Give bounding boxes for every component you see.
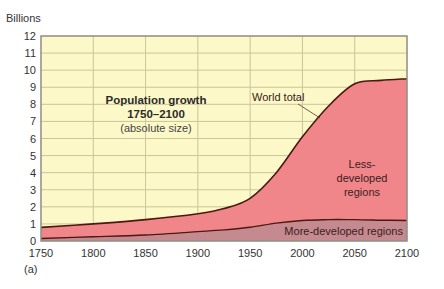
x-tick-label: 1750 — [29, 247, 53, 259]
less-developed-label-line1: Less- — [349, 158, 376, 170]
chart-subtitle: (absolute size) — [120, 122, 192, 134]
x-tick-label: 2100 — [395, 247, 419, 259]
y-tick-label: 1 — [30, 218, 36, 230]
x-tick-label: 1900 — [186, 247, 210, 259]
y-tick-label: 10 — [24, 64, 36, 76]
less-developed-label-line2: developed — [337, 172, 388, 184]
y-tick-label: 2 — [30, 201, 36, 213]
x-tick-label: 2000 — [290, 247, 314, 259]
y-tick-label: 5 — [30, 150, 36, 162]
y-tick-label: 6 — [30, 133, 36, 145]
y-tick-label: 9 — [30, 81, 36, 93]
chart-title-line1: Population growth — [106, 94, 207, 106]
world-total-label: World total — [252, 91, 304, 103]
less-developed-label-line3: regions — [344, 186, 381, 198]
y-axis-ticks: 0123456789101112 — [24, 30, 36, 247]
x-tick-label: 1950 — [238, 247, 262, 259]
chart-title-line2: 1750–2100 — [127, 108, 185, 120]
x-tick-label: 1800 — [81, 247, 105, 259]
panel-label: (a) — [24, 263, 37, 275]
y-tick-label: 7 — [30, 115, 36, 127]
y-tick-label: 4 — [30, 167, 36, 179]
y-tick-label: 0 — [30, 235, 36, 247]
x-tick-label: 2050 — [342, 247, 366, 259]
population-chart: 0123456789101112 17501800185019001950200… — [0, 0, 444, 289]
y-tick-label: 11 — [25, 47, 36, 59]
y-tick-label: 8 — [30, 98, 36, 110]
y-axis-label: Billions — [6, 12, 41, 24]
more-developed-label: More-developed regions — [284, 225, 403, 237]
x-tick-label: 1850 — [133, 247, 157, 259]
y-tick-label: 3 — [30, 184, 36, 196]
y-tick-label: 12 — [24, 30, 36, 42]
x-axis-ticks: 17501800185019001950200020502100 — [29, 247, 419, 259]
